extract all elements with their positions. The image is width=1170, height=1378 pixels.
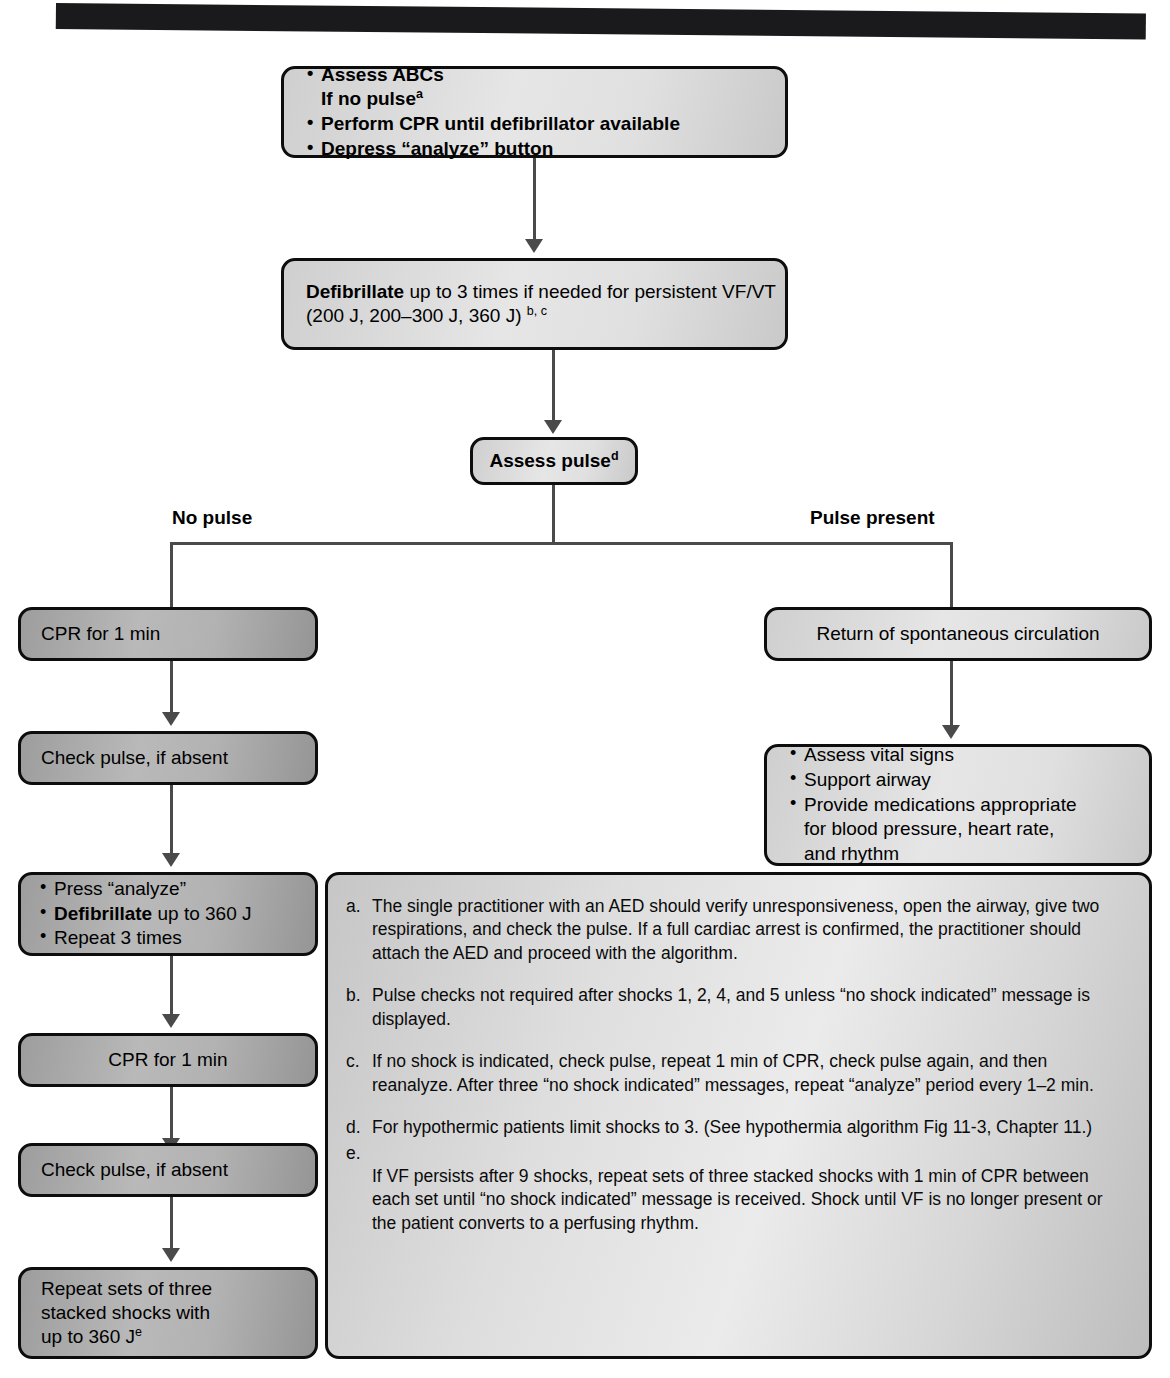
footnotes-panel: a. The single practitioner with an AED s…: [325, 872, 1152, 1359]
footnote-a-marker: a.: [346, 895, 372, 965]
connector-l1: [170, 661, 173, 716]
footnote-ref-bc: b, c: [527, 304, 547, 318]
footnote-b-text: Pulse checks not required after shocks 1…: [372, 984, 1127, 1031]
connector-l3-arrow: [162, 1014, 180, 1028]
footnote-e-text: If VF persists after 9 shocks, repeat se…: [346, 1165, 1127, 1235]
post-resus-item-3-cont-2: and rhythm: [789, 842, 1133, 867]
connector-left-drop: [170, 542, 173, 612]
footnote-ref-d: d: [611, 449, 619, 463]
connector-2: [552, 350, 555, 424]
defibrillate-line-2: (200 J, 200–300 J, 360 J) b, c: [306, 304, 769, 328]
footnote-e: e. If VF persists after 9 shocks, repeat…: [346, 1142, 1127, 1236]
post-resus-item-3: Provide medications appropriate: [789, 793, 1133, 818]
connector-right-drop: [950, 542, 953, 612]
press-analyze-item-3: Repeat 3 times: [39, 926, 299, 951]
footnote-c-text: If no shock is indicated, check pulse, r…: [372, 1050, 1127, 1097]
scan-edge-bar: [56, 3, 1146, 39]
footnote-d: d. For hypothermic patients limit shocks…: [346, 1116, 1127, 1139]
footnote-d-marker: d.: [346, 1116, 372, 1139]
footnote-a: a. The single practitioner with an AED s…: [346, 895, 1127, 965]
check-pulse-1-label: Check pulse, if absent: [41, 746, 299, 770]
press-analyze-item-1: Press “analyze”: [39, 877, 299, 902]
connector-split-bar: [170, 542, 953, 545]
node-assess-pulse: Assess pulsed: [470, 437, 638, 485]
repeat-sets-line-1: Repeat sets of three: [41, 1277, 299, 1301]
footnote-b-marker: b.: [346, 984, 372, 1031]
node-rosc: Return of spontaneous circulation: [764, 607, 1152, 661]
connector-2-arrow: [544, 420, 562, 434]
node-repeat-sets: Repeat sets of three stacked shocks with…: [18, 1267, 318, 1359]
footnote-ref-e: e: [135, 1325, 142, 1339]
cpr-1-label: CPR for 1 min: [41, 622, 299, 646]
branch-label-pulse-present: Pulse present: [810, 507, 935, 529]
repeat-sets-line-3: up to 360 Je: [41, 1325, 299, 1349]
repeat-sets-line-2: stacked shocks with: [41, 1301, 299, 1325]
footnote-d-text: For hypothermic patients limit shocks to…: [372, 1116, 1127, 1139]
connector-1: [533, 158, 536, 243]
connector-l1-arrow: [162, 712, 180, 726]
assess-abcs-item-2: If no pulsea: [306, 87, 769, 112]
assess-abcs-item-1: Assess ABCs: [306, 63, 769, 88]
node-check-pulse-2: Check pulse, if absent: [18, 1143, 318, 1197]
connector-split-stem: [552, 485, 555, 544]
connector-l5-arrow: [162, 1248, 180, 1262]
post-resus-item-2: Support airway: [789, 768, 1133, 793]
footnote-c-marker: c.: [346, 1050, 372, 1097]
node-assess-abcs: Assess ABCs If no pulsea Perform CPR unt…: [281, 66, 788, 158]
footnote-e-marker: e.: [346, 1142, 1127, 1165]
cpr-2-label: CPR for 1 min: [108, 1048, 227, 1072]
footnote-b: b. Pulse checks not required after shock…: [346, 984, 1127, 1031]
rosc-label: Return of spontaneous circulation: [816, 622, 1099, 646]
post-resus-item-1: Assess vital signs: [789, 743, 1133, 768]
node-defibrillate: Defibrillate up to 3 times if needed for…: [281, 258, 788, 350]
footnote-c: c. If no shock is indicated, check pulse…: [346, 1050, 1127, 1097]
connector-1-arrow: [525, 239, 543, 253]
connector-r1: [950, 661, 953, 729]
footnote-a-text: The single practitioner with an AED shou…: [372, 895, 1127, 965]
assess-pulse-label: Assess pulsed: [489, 449, 618, 473]
footnote-ref-a: a: [416, 87, 423, 101]
assess-abcs-item-4: Depress “analyze” button: [306, 137, 769, 162]
post-resus-item-3-cont-1: for blood pressure, heart rate,: [789, 817, 1133, 842]
node-cpr-1: CPR for 1 min: [18, 607, 318, 661]
connector-l2-arrow: [162, 853, 180, 867]
connector-l3: [170, 956, 173, 1018]
node-cpr-2: CPR for 1 min: [18, 1033, 318, 1087]
connector-r1-arrow: [942, 725, 960, 739]
node-post-resuscitation: Assess vital signs Support airway Provid…: [764, 744, 1152, 866]
connector-l2: [170, 785, 173, 857]
figure-canvas: Assess ABCs If no pulsea Perform CPR unt…: [0, 0, 1170, 1378]
connector-l5: [170, 1197, 173, 1252]
check-pulse-2-label: Check pulse, if absent: [41, 1158, 299, 1182]
node-check-pulse-1: Check pulse, if absent: [18, 731, 318, 785]
press-analyze-item-2: Defibrillate up to 360 J: [39, 902, 299, 927]
assess-abcs-item-3: Perform CPR until defibrillator availabl…: [306, 112, 769, 137]
connector-l4: [170, 1087, 173, 1142]
defibrillate-line-1: Defibrillate up to 3 times if needed for…: [306, 280, 769, 304]
node-press-analyze: Press “analyze” Defibrillate up to 360 J…: [18, 872, 318, 956]
branch-label-no-pulse: No pulse: [172, 507, 252, 529]
